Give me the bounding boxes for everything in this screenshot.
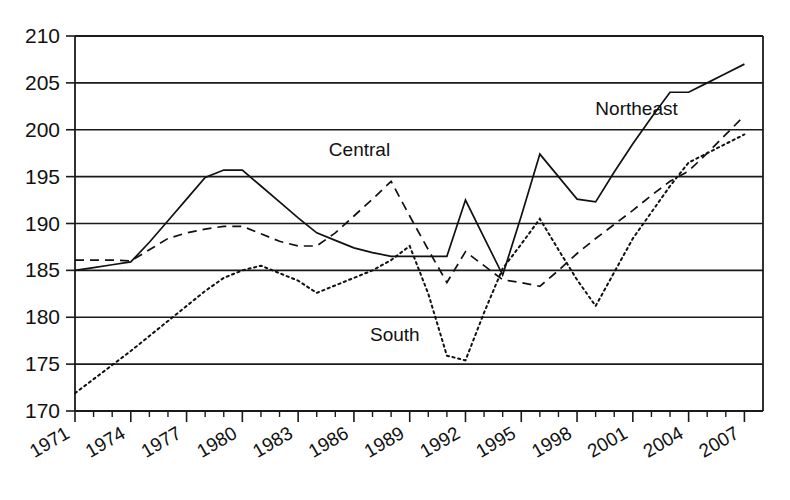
x-tick-label: 1983 — [249, 422, 296, 461]
y-tick-label: 175 — [25, 352, 60, 375]
y-tick-label: 200 — [25, 118, 60, 141]
x-tick-label: 1977 — [137, 422, 184, 461]
x-tick-label: 1974 — [82, 422, 129, 462]
x-tick-label: 1998 — [528, 422, 575, 461]
x-tick-label: 2004 — [640, 422, 687, 462]
y-tick-label: 190 — [25, 212, 60, 235]
y-tick-label: 210 — [25, 24, 60, 47]
y-tick-label: 205 — [25, 71, 60, 94]
x-tick-label: 1980 — [193, 422, 240, 461]
x-tick-label: 1992 — [416, 422, 463, 461]
chart-canvas: 1701751801851901952002052101971197419771… — [0, 0, 790, 500]
series-label-northeast: Northeast — [595, 98, 678, 119]
series-line-northeast — [75, 64, 744, 275]
x-tick-label: 1989 — [361, 422, 408, 461]
series-line-central — [75, 116, 744, 287]
x-tick-label: 2001 — [584, 422, 631, 461]
x-tick-label: 1971 — [26, 422, 73, 461]
series-label-central: Central — [329, 139, 390, 160]
x-tick-label: 2007 — [695, 422, 742, 461]
x-tick-label: 1986 — [305, 422, 352, 461]
y-tick-label: 185 — [25, 258, 60, 281]
x-tick-label: 1995 — [472, 422, 519, 461]
line-chart: 1701751801851901952002052101971197419771… — [0, 0, 790, 500]
y-tick-label: 180 — [25, 305, 60, 328]
y-tick-label: 170 — [25, 399, 60, 422]
y-tick-label: 195 — [25, 165, 60, 188]
series-label-south: South — [370, 324, 420, 345]
series-line-south — [75, 134, 744, 393]
